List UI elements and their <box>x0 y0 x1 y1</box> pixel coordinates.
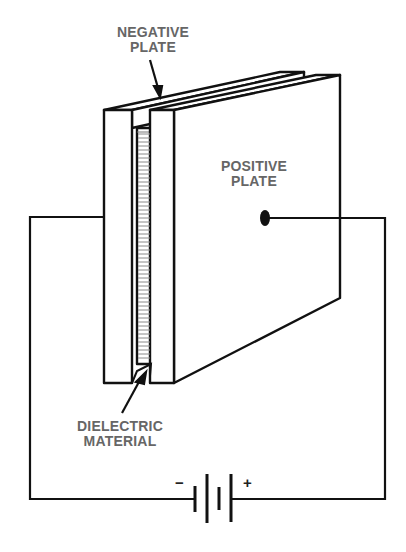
positive-plate <box>150 75 340 383</box>
negative-plate-arrow <box>150 60 158 88</box>
dielectric-arrow <box>122 380 140 413</box>
negative-plate-arrowhead <box>154 86 162 97</box>
positive-plate-label-line2: PLATE <box>208 174 300 189</box>
negative-plate-label-line2: PLATE <box>100 40 206 55</box>
negative-plate-label-line1: NEGATIVE <box>100 25 206 40</box>
battery-minus-sign: − <box>175 474 184 491</box>
dielectric-label-line1: DIELECTRIC <box>60 419 180 434</box>
battery-plus-sign: + <box>243 474 252 491</box>
battery-symbol <box>195 474 231 523</box>
capacitor-diagram <box>0 0 406 552</box>
dielectric-label: DIELECTRIC MATERIAL <box>60 419 180 449</box>
positive-plate-label: POSITIVE PLATE <box>208 159 300 189</box>
dielectric-arrowhead <box>136 372 146 384</box>
positive-terminal-dot <box>260 210 270 226</box>
negative-plate-label: NEGATIVE PLATE <box>100 25 206 55</box>
dielectric-label-line2: MATERIAL <box>60 434 180 449</box>
positive-plate-label-line1: POSITIVE <box>208 159 300 174</box>
